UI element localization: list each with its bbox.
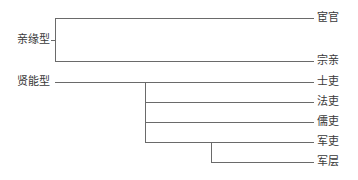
leaf-label: 士吏 [317,76,339,88]
leaf-label: 宦官 [317,12,339,24]
group-label-merit: 贤能型 [2,76,50,88]
leaf-label: 儒吏 [317,116,339,128]
leaf-label: 军层 [317,156,339,168]
group-label-kinship: 亲缘型 [2,34,50,46]
leaf-label: 法吏 [317,96,339,108]
tree-lines [0,0,358,180]
leaf-label: 宗亲 [317,55,339,67]
leaf-label: 军吏 [317,136,339,148]
